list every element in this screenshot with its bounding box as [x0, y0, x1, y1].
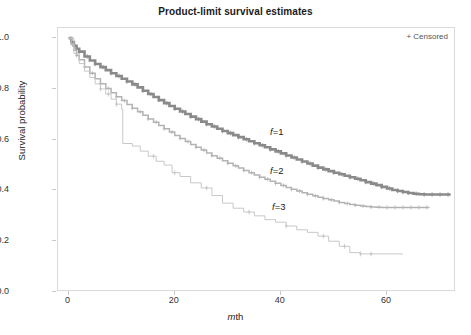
survival-chart: Product-limit survival estimates + Censo… [0, 0, 471, 335]
y-tick-label: 0.0 [0, 286, 9, 296]
x-tick-mark [280, 291, 281, 295]
survival-curve-f1 [69, 38, 451, 194]
curve-label-rest: =2 [273, 165, 284, 176]
censored-mark [91, 71, 94, 75]
censored-mark [155, 120, 158, 124]
censored-mark [298, 189, 301, 193]
curve-label-f-1: f=1 [270, 126, 283, 137]
y-tick-mark [52, 37, 56, 38]
y-tick-label: 0.2 [0, 235, 9, 245]
x-tick-label: 40 [275, 295, 285, 305]
censored-mark [378, 205, 381, 209]
y-tick-label: 0.6 [0, 134, 9, 144]
censored-mark [314, 194, 317, 198]
x-tick-label: 0 [65, 295, 70, 305]
censored-mark [234, 164, 237, 168]
censored-mark [431, 192, 434, 196]
censored-mark [139, 110, 142, 114]
page-title: Product-limit survival estimates [0, 6, 471, 17]
censored-mark [163, 127, 166, 131]
censored-mark [203, 148, 206, 152]
censored-mark [173, 170, 176, 175]
y-tick-mark [52, 291, 56, 292]
censored-mark [402, 205, 405, 209]
censored-mark [213, 124, 216, 128]
censored-mark [415, 192, 418, 196]
x-tick-mark [386, 291, 387, 295]
censored-mark [107, 86, 110, 90]
censored-mark [370, 205, 373, 209]
y-tick-label: 0.4 [0, 184, 9, 194]
censored-mark [330, 198, 333, 202]
censored-mark [197, 117, 200, 121]
censored-mark [115, 95, 118, 99]
y-tick-mark [52, 139, 56, 140]
censored-mark [205, 186, 208, 191]
censored-mark [75, 53, 78, 57]
censored-mark [439, 192, 442, 196]
censored-mark [285, 224, 288, 229]
censored-mark [386, 205, 389, 209]
censored-mark [322, 234, 325, 239]
censored-mark [309, 161, 312, 165]
x-tick-label: 20 [169, 295, 179, 305]
censored-mark [210, 154, 213, 158]
censored-mark [266, 177, 269, 181]
censored-mark [86, 54, 89, 58]
censored-mark [149, 92, 152, 96]
censored-mark [370, 252, 373, 257]
curve-label-rest: =3 [275, 201, 286, 212]
censored-mark [181, 109, 184, 113]
censored-mark [372, 181, 375, 185]
censored-mark [123, 99, 126, 103]
censored-mark [417, 205, 420, 209]
censored-mark [293, 155, 296, 159]
censored-mark [325, 167, 328, 171]
censored-mark [152, 154, 155, 159]
y-tick-mark [52, 189, 56, 190]
censored-mark [226, 161, 229, 165]
curve-label-f-3: f=3 [272, 201, 285, 212]
survival-curves-svg [58, 28, 456, 292]
censored-mark [134, 82, 137, 86]
censored-mark [261, 143, 264, 147]
censored-mark [115, 102, 118, 107]
censored-mark [409, 205, 412, 209]
curve-label-rest: =1 [273, 126, 284, 137]
censored-mark [282, 183, 285, 187]
x-tick-mark [68, 291, 69, 295]
censored-mark [447, 192, 450, 196]
survival-curve-f3 [69, 38, 403, 254]
x-tick-label: 60 [381, 295, 391, 305]
censored-mark [179, 136, 182, 140]
censored-mark [250, 171, 253, 175]
y-tick-mark [52, 88, 56, 89]
y-tick-mark [52, 240, 56, 241]
censored-mark [277, 149, 280, 153]
censored-mark [346, 201, 349, 205]
censored-mark [245, 137, 248, 141]
censored-mark [147, 117, 150, 121]
x-axis-label-rest: th [235, 311, 243, 322]
censored-mark [425, 205, 428, 209]
y-tick-label: 1.0 [0, 32, 9, 42]
y-axis-label: Survival probability [16, 51, 27, 191]
plot-area: + Censored [57, 27, 455, 291]
censored-mark [388, 186, 391, 190]
censored-mark [248, 210, 251, 215]
censored-mark [107, 92, 110, 97]
censored-mark [171, 130, 174, 134]
censored-mark [102, 65, 105, 69]
censored-mark [165, 101, 168, 105]
censored-mark [218, 156, 221, 160]
censored-mark [258, 175, 261, 179]
censored-mark [229, 131, 232, 135]
censored-mark [362, 204, 365, 208]
x-axis-label: mth [0, 311, 471, 322]
censored-mark [242, 168, 245, 172]
censored-mark [394, 205, 397, 209]
x-tick-mark [174, 291, 175, 295]
censored-mark [195, 145, 198, 149]
curve-label-f-2: f=2 [270, 165, 283, 176]
censored-mark [118, 74, 121, 78]
